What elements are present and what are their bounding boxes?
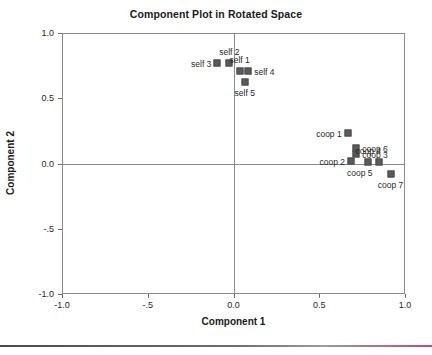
y-axis-tick-label: -1.0	[38, 289, 54, 299]
y-axis-tick	[58, 98, 62, 99]
y-axis-tick	[58, 294, 62, 295]
data-point-label: coop 1	[316, 130, 342, 139]
data-point-marker	[214, 59, 221, 66]
data-point-label: coop 2	[320, 157, 346, 166]
x-axis-tick	[405, 294, 406, 298]
x-axis-tick	[234, 294, 235, 298]
data-point-label: self 4	[254, 67, 274, 76]
data-point-marker	[245, 67, 252, 74]
y-axis-tick	[58, 164, 62, 165]
x-axis-tick-label: 1.0	[399, 300, 412, 310]
data-point-label: coop 5	[347, 169, 373, 178]
data-point-marker	[365, 158, 372, 165]
x-axis-tick-label: 0.5	[313, 300, 326, 310]
data-point-label: self 1	[229, 55, 249, 64]
x-axis-tick	[319, 294, 320, 298]
data-point-marker	[387, 170, 394, 177]
data-point-label: self 3	[191, 59, 211, 68]
x-axis-tick	[62, 294, 63, 298]
x-axis-tick	[148, 294, 149, 298]
y-axis-tick-label: 1.0	[41, 28, 54, 38]
x-axis-tick-label: -1.0	[54, 300, 70, 310]
data-point-marker	[344, 130, 351, 137]
y-axis-label: Component 2	[0, 103, 20, 223]
data-point-marker	[241, 79, 248, 86]
y-axis-tick-label: 0.0	[41, 159, 54, 169]
x-axis-tick-label: -.5	[142, 300, 153, 310]
chart-title: Component Plot in Rotated Space	[0, 8, 432, 20]
origin-line-horizontal	[63, 164, 404, 165]
y-axis-tick	[58, 229, 62, 230]
y-axis-tick	[58, 33, 62, 34]
chart-figure: Component Plot in Rotated Space self 3se…	[0, 0, 432, 340]
x-axis-tick-label: 0.0	[227, 300, 240, 310]
x-axis-label: Component 1	[62, 316, 405, 327]
y-axis-tick-label: 0.5	[41, 93, 54, 103]
data-point-label: coop 4	[356, 146, 382, 155]
data-point-label: coop 7	[378, 181, 404, 190]
y-axis-tick-label: -.5	[43, 224, 54, 234]
plot-area: self 3self 2self 1self 4self 5coop 1coop…	[62, 33, 405, 294]
y-axis-label-text: Component 2	[5, 131, 16, 195]
data-point-marker	[236, 67, 243, 74]
data-point-marker	[375, 158, 382, 165]
data-point-marker	[348, 157, 355, 164]
bottom-divider	[0, 345, 432, 347]
data-point-label: self 5	[235, 89, 255, 98]
